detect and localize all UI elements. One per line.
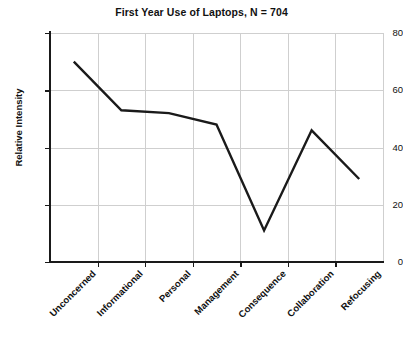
chart-title: First Year Use of Laptops, N = 704 [0,6,403,18]
y-axis-label: Relative Intensity [13,48,24,208]
y-tick-label: 0 [359,257,403,267]
x-tick-label-unconcerned: Unconcerned [47,268,98,319]
x-tick-label-collaboration: Collaboration [284,268,335,319]
gridline-vertical [145,33,146,262]
x-tick-mark [145,262,146,267]
gridline-horizontal [50,148,383,149]
x-tick-mark [288,262,289,267]
gridline-vertical [193,33,194,262]
chart-figure: First Year Use of Laptops, N = 704 02040… [0,0,403,338]
x-axis-line [49,261,384,263]
x-tick-label-management: Management [191,268,240,317]
y-tick-label: 20 [359,200,403,210]
gridline-horizontal [50,90,383,91]
gridline-horizontal [50,205,383,206]
x-tick-mark [193,262,194,267]
y-tick-mark [45,262,50,263]
y-tick-mark [45,148,50,149]
y-tick-mark [45,33,50,34]
x-tick-label-personal: Personal [157,268,193,304]
x-tick-mark [98,262,99,267]
x-tick-label-consequence: Consequence [236,268,288,320]
gridline-vertical [288,33,289,262]
x-tick-label-informational: Informational [95,268,145,318]
gridline-vertical [98,33,99,262]
gridline-vertical [240,33,241,262]
x-tick-mark [240,262,241,267]
y-tick-label: 40 [359,143,403,153]
gridline-horizontal [50,33,383,34]
x-tick-mark [335,262,336,267]
y-tick-mark [45,90,50,91]
gridline-vertical [335,33,336,262]
y-tick-label: 60 [359,85,403,95]
x-tick-label-refocusing: Refocusing [339,268,383,312]
y-tick-mark [45,205,50,206]
y-tick-label: 80 [359,28,403,38]
